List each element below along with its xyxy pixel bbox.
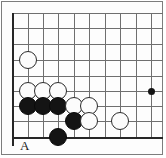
go-board-diagram: A xyxy=(0,0,166,158)
point-label-a: A xyxy=(20,139,29,152)
board-labels: A xyxy=(0,0,166,158)
